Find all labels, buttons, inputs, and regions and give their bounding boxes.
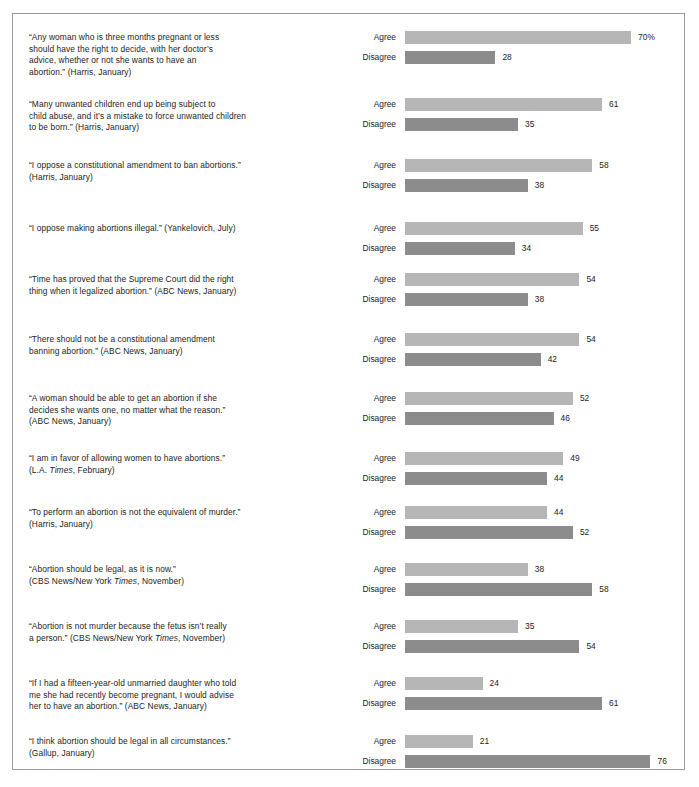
bar-line-disagree: Disagree61 — [345, 697, 684, 710]
poll-bar-group: Agree61Disagree35 — [345, 98, 684, 138]
bar-track-disagree: 35 — [405, 118, 684, 131]
bar-track-disagree: 46 — [405, 412, 684, 425]
poll-bar-group: Agree35Disagree54 — [345, 620, 684, 660]
bar-track-agree: 55 — [405, 222, 684, 235]
bar-label-disagree: Disagree — [345, 242, 405, 255]
poll-row: “A woman should be able to get an aborti… — [13, 392, 684, 432]
poll-statement: “I oppose making abortions illegal.” (Ya… — [29, 222, 329, 235]
bar-track-agree: 21 — [405, 735, 684, 748]
bar-line-disagree: Disagree38 — [345, 179, 684, 192]
bar-label-agree: Agree — [345, 620, 405, 633]
poll-row: “I am in favor of allowing women to have… — [13, 452, 684, 492]
bar-fill-agree — [405, 222, 583, 235]
bar-label-disagree: Disagree — [345, 118, 405, 131]
bar-line-agree: Agree54 — [345, 273, 684, 286]
bar-line-agree: Agree44 — [345, 506, 684, 519]
bar-label-disagree: Disagree — [345, 697, 405, 710]
bar-label-agree: Agree — [345, 98, 405, 111]
poll-row: “Time has proved that the Supreme Court … — [13, 273, 684, 313]
bar-track-disagree: 42 — [405, 353, 684, 366]
bar-fill-agree — [405, 620, 518, 633]
bar-line-agree: Agree38 — [345, 563, 684, 576]
poll-row: “I think abortion should be legal in all… — [13, 735, 684, 775]
bar-value-disagree: 46 — [561, 412, 570, 425]
poll-row: “Any woman who is three months pregnant … — [13, 31, 684, 78]
bar-value-disagree: 42 — [548, 353, 557, 366]
bar-value-agree: 58 — [599, 159, 608, 172]
bar-label-agree: Agree — [345, 452, 405, 465]
bar-track-agree: 58 — [405, 159, 684, 172]
bar-line-agree: Agree24 — [345, 677, 684, 690]
bar-value-agree: 54 — [586, 333, 595, 346]
poll-statement: “A woman should be able to get an aborti… — [29, 392, 329, 428]
bar-track-disagree: 44 — [405, 472, 684, 485]
bar-label-disagree: Disagree — [345, 755, 405, 768]
bar-value-agree: 55 — [590, 222, 599, 235]
bar-label-agree: Agree — [345, 31, 405, 44]
bar-line-disagree: Disagree38 — [345, 293, 684, 306]
poll-bar-group: Agree55Disagree34 — [345, 222, 684, 262]
bar-fill-disagree — [405, 472, 547, 485]
bar-value-agree: 49 — [570, 452, 579, 465]
bar-fill-disagree — [405, 640, 579, 653]
bar-fill-agree — [405, 273, 579, 286]
bar-label-disagree: Disagree — [345, 51, 405, 64]
bar-track-agree: 54 — [405, 273, 684, 286]
bar-value-agree: 52 — [580, 392, 589, 405]
bar-line-agree: Agree54 — [345, 333, 684, 346]
poll-row: “To perform an abortion is not the equiv… — [13, 506, 684, 546]
poll-rows-container: “Any woman who is three months pregnant … — [13, 14, 684, 769]
bar-fill-disagree — [405, 353, 541, 366]
bar-value-agree: 24 — [490, 677, 499, 690]
poll-bar-group: Agree38Disagree58 — [345, 563, 684, 603]
bar-fill-agree — [405, 392, 573, 405]
bar-value-disagree: 38 — [535, 179, 544, 192]
bar-line-disagree: Disagree76 — [345, 755, 684, 768]
bar-line-agree: Agree55 — [345, 222, 684, 235]
poll-row: “Many unwanted children end up being sub… — [13, 98, 684, 138]
bar-track-agree: 38 — [405, 563, 684, 576]
poll-bar-group: Agree21Disagree76 — [345, 735, 684, 775]
bar-label-disagree: Disagree — [345, 583, 405, 596]
poll-bar-group: Agree54Disagree38 — [345, 273, 684, 313]
poll-statement: “There should not be a constitutional am… — [29, 333, 329, 357]
bar-track-agree: 44 — [405, 506, 684, 519]
bar-fill-disagree — [405, 118, 518, 131]
bar-line-agree: Agree58 — [345, 159, 684, 172]
bar-fill-disagree — [405, 697, 602, 710]
bar-track-disagree: 28 — [405, 51, 684, 64]
bar-fill-agree — [405, 506, 547, 519]
bar-line-disagree: Disagree46 — [345, 412, 684, 425]
bar-fill-agree — [405, 452, 563, 465]
poll-row: “There should not be a constitutional am… — [13, 333, 684, 373]
bar-label-agree: Agree — [345, 677, 405, 690]
bar-fill-agree — [405, 159, 592, 172]
bar-line-agree: Agree49 — [345, 452, 684, 465]
bar-value-disagree: 54 — [586, 640, 595, 653]
poll-statement: “Abortion is not murder because the fetu… — [29, 620, 329, 644]
bar-line-disagree: Disagree52 — [345, 526, 684, 539]
bar-track-disagree: 61 — [405, 697, 684, 710]
poll-statement: “Time has proved that the Supreme Court … — [29, 273, 329, 297]
bar-fill-disagree — [405, 583, 592, 596]
bar-value-disagree: 38 — [535, 293, 544, 306]
bar-value-disagree: 76 — [657, 755, 666, 768]
bar-value-disagree: 52 — [580, 526, 589, 539]
bar-fill-disagree — [405, 51, 495, 64]
bar-value-agree: 35 — [525, 620, 534, 633]
poll-statement: “I oppose a constitutional amendment to … — [29, 159, 329, 183]
bar-track-agree: 52 — [405, 392, 684, 405]
bar-fill-disagree — [405, 293, 528, 306]
bar-value-agree: 54 — [586, 273, 595, 286]
poll-statement: “I think abortion should be legal in all… — [29, 735, 329, 759]
bar-line-disagree: Disagree44 — [345, 472, 684, 485]
bar-fill-disagree — [405, 755, 650, 768]
bar-label-agree: Agree — [345, 735, 405, 748]
bar-track-disagree: 38 — [405, 179, 684, 192]
bar-fill-agree — [405, 563, 528, 576]
bar-track-disagree: 58 — [405, 583, 684, 596]
poll-statement: “Any woman who is three months pregnant … — [29, 31, 329, 78]
bar-line-agree: Agree61 — [345, 98, 684, 111]
poll-row: “I oppose a constitutional amendment to … — [13, 159, 684, 199]
bar-track-disagree: 76 — [405, 755, 684, 768]
